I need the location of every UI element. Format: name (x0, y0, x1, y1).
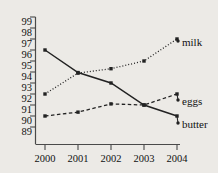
label-leader-lines (176, 39, 179, 125)
data-series-group (43, 37, 178, 117)
series-line-milk (45, 39, 177, 94)
data-point-marker (142, 103, 145, 106)
axis-lines (30, 17, 180, 150)
x-axis-ticks (45, 145, 177, 151)
data-point-marker (43, 114, 46, 117)
data-point-marker (43, 48, 46, 51)
data-point-marker (142, 59, 145, 62)
data-point-marker (109, 102, 112, 105)
data-point-marker (109, 81, 112, 84)
series-eggs (43, 92, 178, 117)
plot-area (0, 0, 218, 173)
label-anchor-dot-butter (176, 121, 179, 124)
data-point-marker (76, 110, 79, 113)
data-point-marker (43, 92, 46, 95)
line-chart: 99 98 97 96 95 94 93 92 91 90 89 2000 20… (0, 0, 218, 173)
label-anchor-dot-eggs (176, 98, 179, 101)
data-point-marker (76, 71, 79, 74)
y-axis-ticks (30, 17, 36, 127)
data-point-marker (109, 67, 112, 70)
label-anchor-dot-milk (176, 39, 179, 42)
series-milk (43, 37, 178, 95)
series-butter (43, 48, 178, 117)
